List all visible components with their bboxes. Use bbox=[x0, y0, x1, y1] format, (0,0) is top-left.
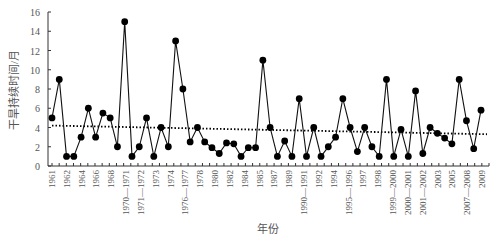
x-axis: 196119621964196619681970—19711971—197219… bbox=[47, 163, 489, 215]
x-tick-label: 1992 bbox=[314, 170, 324, 188]
data-point bbox=[376, 153, 383, 160]
data-point bbox=[281, 138, 288, 145]
y-tick-label: 10 bbox=[30, 65, 40, 76]
data-point bbox=[296, 95, 303, 102]
x-tick-label: 1962 bbox=[62, 170, 72, 188]
data-point bbox=[158, 124, 165, 131]
x-tick-label: 1998 bbox=[373, 170, 383, 189]
x-tick-label: 1990—1991 bbox=[299, 170, 309, 215]
data-point bbox=[339, 95, 346, 102]
data-point bbox=[427, 124, 434, 131]
data-point bbox=[179, 86, 186, 93]
y-tick-label: 16 bbox=[30, 7, 40, 18]
x-tick-label: 1961 bbox=[47, 170, 57, 188]
data-point bbox=[114, 143, 121, 150]
data-point bbox=[347, 124, 354, 131]
x-tick-label: 1999—2000 bbox=[388, 170, 398, 216]
data-point bbox=[136, 143, 143, 150]
data-point bbox=[274, 153, 281, 160]
x-tick-label: 1970—1971 bbox=[121, 170, 131, 215]
data-point bbox=[172, 37, 179, 44]
y-tick-label: 2 bbox=[35, 142, 40, 153]
x-tick-label: 1966 bbox=[91, 170, 101, 189]
data-point bbox=[310, 124, 317, 131]
data-point bbox=[56, 76, 63, 83]
x-tick-label: 2000—2001 bbox=[403, 170, 413, 215]
x-tick-label: 1985 bbox=[255, 170, 265, 189]
x-tick-label: 2005 bbox=[447, 170, 457, 189]
data-point bbox=[361, 124, 368, 131]
x-tick-label: 1973 bbox=[151, 170, 161, 189]
y-tick-label: 6 bbox=[35, 103, 40, 114]
data-point bbox=[165, 143, 172, 150]
data-point bbox=[390, 153, 397, 160]
x-tick-label: 1987 bbox=[269, 170, 279, 189]
data-point bbox=[354, 148, 361, 155]
x-tick-label: 1997 bbox=[358, 170, 368, 189]
x-tick-label: 2003 bbox=[433, 170, 443, 189]
data-point bbox=[99, 110, 106, 117]
x-tick-label: 1982 bbox=[225, 170, 235, 188]
data-point bbox=[194, 124, 201, 131]
x-tick-label: 1978 bbox=[195, 170, 205, 189]
x-tick-label: 2009 bbox=[477, 170, 487, 189]
x-tick-label: 2007—2008 bbox=[462, 170, 472, 216]
data-point bbox=[289, 153, 296, 160]
x-tick-label: 1974 bbox=[166, 170, 176, 189]
data-point bbox=[412, 88, 419, 95]
data-point bbox=[303, 153, 310, 160]
y-tick-label: 4 bbox=[35, 123, 40, 134]
x-tick-label: 1989 bbox=[284, 170, 294, 189]
data-point bbox=[441, 135, 448, 142]
drought-duration-chart: 0246810121416 196119621964196619681970—1… bbox=[0, 0, 495, 245]
data-point bbox=[456, 76, 463, 83]
data-point bbox=[216, 150, 223, 157]
data-series bbox=[49, 18, 485, 160]
x-tick-label: 1994 bbox=[329, 170, 339, 189]
x-tick-label: 2001—2002 bbox=[418, 170, 428, 215]
data-point bbox=[107, 114, 114, 121]
data-point bbox=[85, 105, 92, 112]
data-point bbox=[259, 57, 266, 64]
data-point bbox=[121, 18, 128, 25]
x-tick-label: 1995—1996 bbox=[344, 170, 354, 216]
data-point bbox=[150, 153, 157, 160]
data-point bbox=[325, 143, 332, 150]
data-point bbox=[245, 144, 252, 151]
y-tick-label: 0 bbox=[35, 161, 40, 172]
x-tick-label: 1976—1977 bbox=[180, 170, 190, 216]
data-point bbox=[63, 153, 70, 160]
y-axis-label: 干旱持续时间/月 bbox=[7, 50, 20, 130]
x-axis-label: 年份 bbox=[257, 222, 279, 235]
data-point bbox=[332, 134, 339, 141]
y-tick-label: 14 bbox=[30, 26, 40, 37]
data-point bbox=[49, 114, 56, 121]
data-point bbox=[230, 140, 237, 147]
data-point bbox=[92, 134, 99, 141]
data-point bbox=[143, 114, 150, 121]
data-point bbox=[187, 139, 194, 146]
data-point bbox=[252, 144, 259, 151]
x-tick-label: 1971—1972 bbox=[136, 170, 146, 215]
y-tick-label: 12 bbox=[30, 46, 40, 57]
x-tick-label: 1964 bbox=[77, 170, 87, 189]
data-point bbox=[209, 144, 216, 151]
x-tick-label: 1968 bbox=[106, 170, 116, 189]
data-point bbox=[267, 124, 274, 131]
data-point bbox=[405, 153, 412, 160]
data-point bbox=[223, 140, 230, 147]
data-point bbox=[419, 150, 426, 157]
x-tick-label: 1980 bbox=[210, 170, 220, 189]
data-point bbox=[434, 130, 441, 137]
y-axis: 0246810121416 bbox=[30, 7, 51, 172]
data-point bbox=[70, 153, 77, 160]
data-point bbox=[449, 140, 456, 147]
data-point bbox=[318, 153, 325, 160]
data-point bbox=[201, 139, 208, 146]
data-point bbox=[470, 145, 477, 152]
data-point bbox=[78, 134, 85, 141]
data-point bbox=[478, 107, 485, 114]
data-point bbox=[398, 126, 405, 133]
data-point bbox=[369, 143, 376, 150]
x-tick-label: 1984 bbox=[240, 170, 250, 189]
